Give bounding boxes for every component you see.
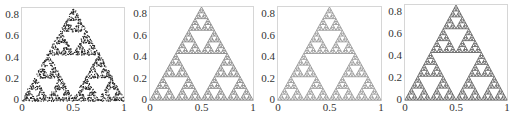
y-tick-label: 0	[380, 94, 402, 105]
y-tick-label: 0.4	[380, 50, 402, 61]
x-tick-label: 1	[504, 102, 510, 113]
y-tick-label: 0.2	[380, 72, 402, 83]
sierpinski-triangle	[405, 5, 507, 100]
plot-area	[404, 4, 508, 101]
y-tick-label: 0.6	[380, 28, 402, 39]
chart-panel-4: 00.20.40.60.800.51	[0, 0, 510, 118]
y-tick-label: 0.8	[380, 6, 402, 17]
x-tick-label: 0	[402, 102, 408, 113]
x-tick-label: 0.5	[449, 102, 463, 113]
